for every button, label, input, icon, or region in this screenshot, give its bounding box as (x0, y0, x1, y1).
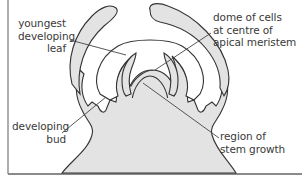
label-line: developing (18, 30, 66, 43)
label-line: developing (12, 120, 66, 133)
label-line: dome of cells (213, 11, 296, 24)
label-line: at centre of (213, 24, 296, 37)
stem-body (62, 54, 236, 173)
label-line: bud (12, 133, 66, 146)
label-line: apical meristem (213, 36, 296, 49)
label-dome-of-cells: dome of cells at centre of apical merist… (213, 11, 296, 49)
label-youngest-leaf: youngest developing leaf (18, 17, 66, 55)
label-line: youngest (18, 17, 66, 30)
label-line: leaf (18, 42, 66, 55)
label-developing-bud: developing bud (12, 120, 66, 145)
label-region-of-stem-growth: region of stem growth (220, 130, 285, 155)
label-line: region of (220, 130, 285, 143)
label-line: stem growth (220, 143, 285, 156)
diagram-frame: youngest developing leaf dome of cells a… (0, 0, 302, 181)
